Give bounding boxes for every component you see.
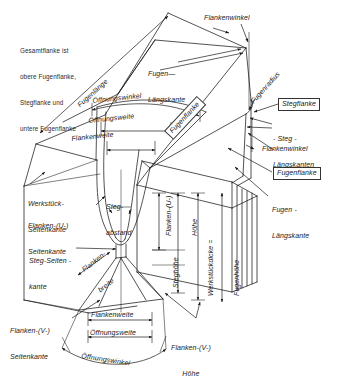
label-steg-seitenkante-line1: Steg-Seiten - (29, 257, 71, 266)
label-flanken-v-hoehe-line1: Flanken-(V-) (171, 344, 211, 353)
label-flanken-u-hoehe: Flanken-(U-) Höhe (148, 196, 217, 236)
note-line-3: Stegflanke und (20, 99, 76, 108)
label-flankenbreite-line1: Flanken- (81, 250, 108, 274)
note-gesamtflanke: Gesamtflanke ist obere Fugenflanke, Steg… (20, 30, 76, 150)
label-fugen-langskante-top: Fugen— Längskante (148, 53, 185, 122)
label-flanken-v-seitenkante-line1: Flanken-(V-) (10, 327, 50, 336)
label-fugen-langskante-top-line2: Längskante (148, 96, 185, 105)
note-line-1: Gesamtflanke ist (20, 47, 76, 56)
label-steg-langskanten-line1: - Steg - (273, 135, 314, 144)
label-oeffnungsweite-bottom: Öffnungsweite (90, 329, 136, 338)
label-flanken-v-hoehe-line2: Höhe (171, 370, 211, 379)
label-fugen-langskante-top-line1: Fugen— (148, 70, 185, 79)
label-flankenbreite-line2: breite (96, 271, 123, 295)
label-stegflanke-box: Stegflanke (278, 98, 320, 111)
label-flankenwinkel-top: Flankenwinkel (204, 14, 250, 23)
label-werkstueckdicke-line1: Werkstückdicke = (207, 239, 216, 296)
label-flanken-v-seitenkante-line2: Seitenkante (10, 353, 50, 362)
note-line-2: obere Fugenflanke, (20, 73, 76, 82)
label-flankenwinkel-right: Flankenwinkel (262, 145, 308, 154)
label-flanken-v-seitenkante: Flanken-(V-) Seitenkante (10, 310, 50, 379)
label-stegabstand: Steg- abstand (106, 186, 132, 255)
label-flanken-u-seitenkante-line1: Flanken-(U-) (28, 222, 68, 231)
label-steghoehe: Steghöhe (172, 257, 181, 288)
label-flanken-u-hoehe-line2: Höhe (191, 196, 200, 236)
label-steg-seitenkante: Steg-Seiten - kante (29, 240, 71, 309)
label-flanken-v-hoehe: Flanken-(V-) Höhe (171, 327, 211, 379)
label-fugenflanke-box: Fugenflanke (273, 167, 321, 180)
technical-diagram: Gesamtflanke ist obere Fugenflanke, Steg… (0, 0, 347, 379)
label-werkstueckdicke-line2: Fugenhöhe (233, 239, 242, 296)
note-line-4: untere Fugenflanke (20, 125, 76, 134)
label-fugen-langskante-right-line2: Längskante (272, 232, 309, 241)
label-flankenweite-bottom: Flankenweite (91, 311, 133, 320)
label-flanken-u-hoehe-line1: Flanken-(U-) (165, 196, 174, 236)
label-werkstueckdicke-fugenhoehe: Werkstückdicke = Fugenhöhe (190, 239, 259, 296)
label-steg-seitenkante-line2: kante (29, 283, 71, 292)
label-stegabstand-line1: Steg- (106, 203, 132, 212)
label-fugen-langskante-right: Fugen - Längskante (272, 189, 309, 258)
label-fugen-langskante-right-line1: Fugen - (272, 206, 309, 215)
label-stegabstand-line2: abstand (106, 229, 132, 238)
